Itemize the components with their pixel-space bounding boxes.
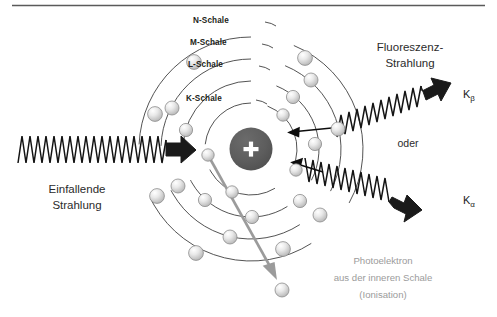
photoelectron-label-line3: (Ionisation) [298,288,468,302]
electron-K-vacancy-source [202,149,214,161]
electron-L-2 [308,137,321,150]
k-alpha-subscript: α [470,200,475,209]
k-alpha-label: Kα [463,194,475,210]
nucleus [230,128,273,171]
electron-photoelectron-ejected [275,283,289,297]
electron-N-2 [276,242,291,257]
electron-M-2 [331,122,345,136]
shell-label-L: L-Schale [188,60,223,70]
einfallende-strahlung-wave [18,136,196,163]
fluorescence-label-line2: Strahlung [350,56,470,70]
electron-L-4 [245,210,258,223]
electron-L-5 [198,193,211,206]
k-beta-subscript: β [470,94,475,103]
or-label: oder [378,137,438,150]
electron-N-4 [150,189,165,204]
k-beta-label: Kβ [463,88,475,104]
electron-M-4 [223,230,237,244]
photoelectron-ejection-arrow [208,155,276,278]
electron-L-1 [286,90,299,103]
photoelectron-label-line1: Photoelektron [298,254,468,268]
electron-L-3 [293,194,306,207]
fluorescence-label-line1: Fluoreszenz- [350,40,470,54]
electron-M-1 [304,73,318,87]
electron-K-1 [277,109,289,121]
figure-canvas: N-Schale M-Schale L-Schale K-Schale Einf… [0,0,497,317]
k-alpha-arrowhead [389,195,422,222]
shell-label-M: M-Schale [190,38,227,48]
electron-K-3 [226,186,238,198]
electron-M-6 [165,101,179,115]
electron-N-5 [148,107,163,122]
electron-M-3 [313,208,327,222]
electron-M-5 [171,179,185,193]
incoming-radiation-label-line1: Einfallende [22,182,132,196]
k-beta-fluorescence-wave [337,78,451,137]
k-beta-arrowhead [421,78,451,101]
shell-label-N: N-Schale [193,16,229,26]
electron-K-2 [290,164,302,176]
einfallende-strahlung-arrowhead [166,136,196,163]
shell-label-leaders [256,22,276,104]
electron-L-6 [179,123,192,136]
electron-N-3 [189,246,204,261]
shell-label-K: K-Schale [186,94,222,104]
photoelectron-label-line2: aus der inneren Schale [288,271,478,285]
electron-N-1 [298,51,313,66]
incoming-radiation-label-line2: Strahlung [22,198,132,212]
